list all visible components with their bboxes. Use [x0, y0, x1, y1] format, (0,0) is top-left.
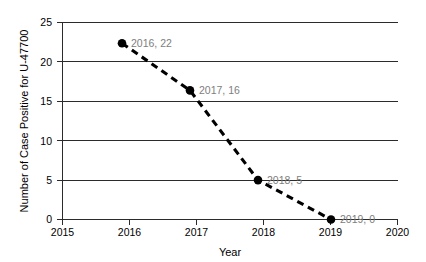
y-tick-label-10: 10 — [40, 135, 52, 147]
data-point-2018[interactable] — [254, 176, 263, 185]
y-tick-label-5: 5 — [46, 174, 52, 186]
data-point-2019[interactable] — [327, 215, 336, 224]
data-point-2017[interactable] — [186, 86, 195, 95]
x-tick-label-2017: 2017 — [185, 226, 209, 238]
x-tick-label-2020: 2020 — [386, 226, 410, 238]
y-axis-title: Number of Case Positive for U-47700 — [18, 30, 30, 213]
x-tick-label-2015: 2015 — [51, 226, 75, 238]
y-tick-label-15: 15 — [40, 95, 52, 107]
x-tick-label-2016: 2016 — [118, 226, 142, 238]
y-tick-label-20: 20 — [40, 56, 52, 68]
data-label-2019: 2019, 0 — [340, 213, 375, 225]
y-tick-label-0: 0 — [46, 213, 52, 225]
data-label-2016: 2016, 22 — [131, 37, 172, 49]
x-axis-title: Year — [219, 246, 242, 258]
data-label-2017: 2017, 16 — [199, 84, 240, 96]
scatter-chart: 25 20 15 10 5 0 2015 2016 2017 2018 2019… — [0, 0, 426, 262]
data-point-2016[interactable] — [118, 39, 127, 48]
x-tick-label-2019: 2019 — [319, 226, 343, 238]
x-tick-label-2018: 2018 — [252, 226, 276, 238]
chart-container: 25 20 15 10 5 0 2015 2016 2017 2018 2019… — [0, 0, 426, 262]
data-label-2018: 2018, 5 — [267, 174, 302, 186]
y-tick-label-25: 25 — [40, 16, 52, 28]
